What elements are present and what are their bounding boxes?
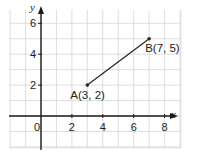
series: A(3, 2)B(7, 5) bbox=[70, 37, 179, 101]
coordinate-plane-chart: x y 02468246 A(3, 2)B(7, 5) bbox=[0, 0, 198, 154]
y-tick-label: 2 bbox=[30, 79, 36, 91]
point-label-b: B(7, 5) bbox=[145, 42, 180, 54]
x-tick-label: 4 bbox=[100, 121, 106, 133]
y-tick-label: 6 bbox=[30, 17, 36, 29]
y-axis-arrow-icon bbox=[38, 6, 44, 14]
point-label-a: A(3, 2) bbox=[70, 89, 105, 101]
x-axis-label: x bbox=[170, 108, 176, 120]
x-tick-label: 6 bbox=[131, 121, 137, 133]
x-tick-label: 8 bbox=[162, 121, 168, 133]
point-b bbox=[147, 37, 151, 41]
y-tick-label: 4 bbox=[30, 48, 36, 60]
x-tick-label: 2 bbox=[69, 121, 75, 133]
x-tick-label: 0 bbox=[34, 121, 40, 133]
y-axis-label: y bbox=[29, 1, 35, 13]
point-a bbox=[86, 83, 90, 87]
